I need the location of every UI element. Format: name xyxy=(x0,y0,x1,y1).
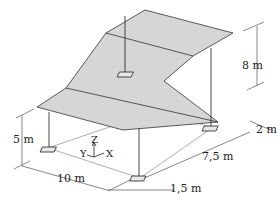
dimension-height-right: 8 m xyxy=(242,60,263,71)
dimension-width-x: 10 m xyxy=(57,173,85,184)
axis-label-y: Y xyxy=(80,149,87,159)
roof-surface xyxy=(37,10,233,130)
support-center xyxy=(117,72,133,77)
axis-label-z: Z xyxy=(91,135,98,145)
axis-label-x: X xyxy=(106,149,113,159)
support-left xyxy=(40,147,56,152)
dimension-depth-2m: 2 m xyxy=(256,124,277,135)
support-bottom xyxy=(130,176,146,181)
dimension-depth-1-5m: 1,5 m xyxy=(170,183,201,194)
support-right xyxy=(202,126,218,131)
dimension-height-left: 5 m xyxy=(13,134,34,145)
structure-diagram xyxy=(0,0,280,203)
dimension-depth-7-5m: 7,5 m xyxy=(202,151,233,162)
